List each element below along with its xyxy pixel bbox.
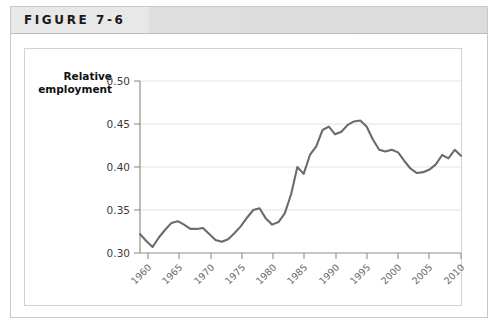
y-tick-label-0.50: 0.50 — [107, 75, 130, 87]
x-tick-label-1970: 1970 — [192, 262, 217, 287]
x-tick-label-1975: 1975 — [223, 262, 248, 287]
data-series-line — [140, 121, 461, 247]
x-tick-label-2010: 2010 — [442, 262, 467, 287]
x-tick-label-1960: 1960 — [129, 262, 154, 287]
chart-plot: 0.50 0.45 0.40 0.35 0.30 1960 1965 1970 … — [0, 0, 498, 324]
y-tick-marks — [134, 81, 140, 253]
x-tick-label-1990: 1990 — [317, 262, 342, 287]
x-tick-labels: 1960 1965 1970 1975 1980 1985 1990 1995 … — [129, 262, 467, 287]
y-tick-label-0.35: 0.35 — [107, 204, 130, 216]
figure-container: FIGURE 7-6 Relative employment 0.50 0.45… — [0, 0, 498, 324]
y-tick-label-0.30: 0.30 — [107, 247, 130, 259]
x-tick-label-1965: 1965 — [160, 262, 185, 287]
x-tick-label-1980: 1980 — [254, 262, 279, 287]
gridlines — [140, 81, 461, 210]
x-tick-label-2000: 2000 — [379, 262, 404, 287]
x-tick-label-1985: 1985 — [285, 262, 310, 287]
y-tick-label-0.40: 0.40 — [107, 161, 130, 173]
y-tick-labels: 0.50 0.45 0.40 0.35 0.30 — [107, 75, 130, 259]
x-tick-marks — [148, 253, 461, 259]
x-tick-label-2005: 2005 — [410, 262, 435, 287]
x-tick-label-1995: 1995 — [348, 262, 373, 287]
y-tick-label-0.45: 0.45 — [107, 118, 130, 130]
